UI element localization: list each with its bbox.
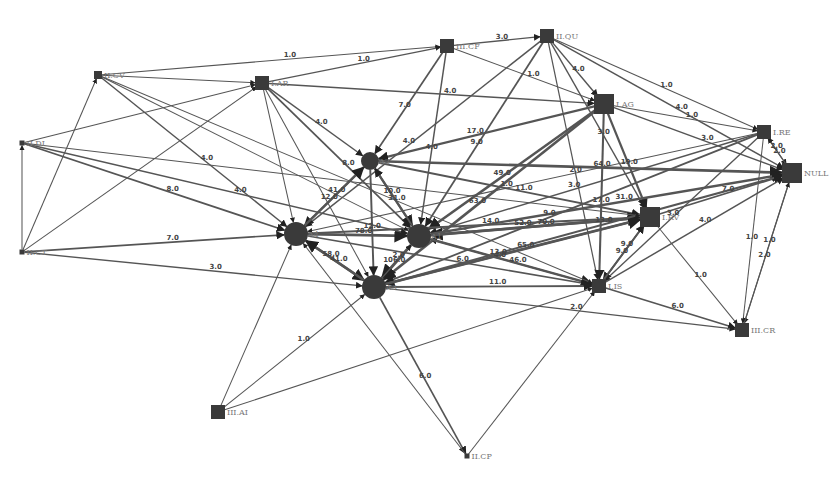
node-i-ag[interactable]: I.AG [594, 94, 634, 114]
edge-II.DI-to-I.AR [24, 85, 255, 143]
edge-weight-label: 3.0 [209, 263, 222, 271]
square-node-shape[interactable] [440, 39, 454, 53]
square-node-shape[interactable] [94, 71, 102, 79]
edge-weight-label: 46.0 [509, 256, 526, 264]
square-node-shape[interactable] [255, 76, 269, 90]
square-node-shape[interactable] [20, 250, 25, 255]
edge-weight-label: 8.0 [342, 159, 355, 167]
edge-weight-label: 9.0 [543, 209, 556, 217]
node-label: NULL [804, 169, 829, 178]
edge-weight-label: 8.0 [166, 185, 179, 193]
edge-weight-label: 52.0 [514, 219, 531, 227]
node-label: II.CT [27, 248, 48, 257]
edge-weight-label: 9.0 [616, 247, 629, 255]
edge-weight-label: 49.0 [494, 169, 511, 177]
edge-weight-label: 17.0 [593, 196, 610, 204]
node-label: II.QU [556, 32, 578, 41]
edge-I.RE-to-A3 [385, 135, 757, 283]
circle-node-shape[interactable] [284, 222, 308, 246]
edge-weight-label: 2.0 [770, 142, 783, 150]
edge-II.CT-to-A3 [24, 252, 362, 286]
node-label: II.CP [472, 452, 493, 461]
node-a4[interactable]: A4 [284, 222, 319, 246]
node-iii-cr[interactable]: III.CR [735, 323, 776, 337]
node-i-re[interactable]: I.RE [757, 125, 791, 139]
node-iii-cf[interactable]: III.CF [440, 39, 480, 53]
node-ii-di[interactable]: II.DI [20, 139, 45, 148]
edge-weight-label: 65.0 [517, 241, 534, 249]
square-node-shape[interactable] [540, 29, 554, 43]
square-node-shape[interactable] [211, 405, 225, 419]
edge-weight-label: 9.0 [621, 240, 634, 248]
edge-weight-label: 4.0 [676, 103, 689, 111]
circle-node-shape[interactable] [361, 152, 379, 170]
edge-weight-label: 31.0 [388, 194, 405, 202]
edge-weight-label: 4.0 [699, 216, 712, 224]
square-node-shape[interactable] [735, 323, 749, 337]
circle-node-shape[interactable] [407, 224, 431, 248]
edge-II.CT-to-I.AR [24, 87, 256, 251]
edge-weight-label: 4.0 [234, 186, 247, 194]
node-label: II.DI [27, 139, 45, 148]
node-label: I.IS [608, 282, 622, 291]
node-i-ar[interactable]: I.AR [255, 76, 289, 90]
edge-weight-label: 58.0 [322, 250, 339, 258]
node-label: II.CV [104, 71, 125, 80]
edge-weight-label: 7.0 [166, 234, 179, 242]
node-a3[interactable]: A3 [362, 275, 397, 299]
edge-weight-label: 4.0 [403, 137, 416, 145]
edge-weight-label: 6.0 [671, 302, 684, 310]
square-node-shape[interactable] [465, 454, 470, 459]
square-node-shape[interactable] [757, 125, 771, 139]
node-null[interactable]: NULL [782, 163, 829, 183]
edge-weight-label: 1.0 [686, 111, 699, 119]
node-ii-qu[interactable]: II.QU [540, 29, 578, 43]
edge-weight-label: 11.0 [489, 278, 506, 286]
edge-II.QU-to-I.RV [550, 42, 645, 208]
edge-weight-label: 1.0 [694, 271, 707, 279]
edge-weight-label: 17.0 [467, 127, 484, 135]
node-label: III.AI [227, 408, 248, 417]
edges-layer [22, 37, 789, 454]
edge-II.DI-to-A1 [24, 144, 407, 234]
edge-weight-label: 1.0 [746, 233, 759, 241]
edge-weight-label: 4.0 [315, 118, 328, 126]
edge-weight-label: 1.0 [358, 55, 371, 63]
edge-weight-label: 7.0 [398, 101, 411, 109]
edge-weight-label: 2.0 [570, 303, 583, 311]
edge-weight-label: 2.0 [758, 251, 771, 259]
edge-weight-label: 11.0 [515, 184, 532, 192]
square-node-shape[interactable] [594, 94, 614, 114]
square-node-shape[interactable] [640, 207, 660, 227]
edge-II.QU-to-A4 [305, 40, 541, 226]
node-label: A2 [378, 157, 390, 166]
circle-node-shape[interactable] [362, 275, 386, 299]
square-node-shape[interactable] [20, 141, 25, 146]
node-label: III.CF [456, 42, 480, 51]
node-iii-ai[interactable]: III.AI [211, 405, 248, 419]
edge-II.CV-to-A1 [102, 77, 409, 231]
node-i-is[interactable]: I.IS [592, 279, 622, 293]
node-label: I.AG [616, 100, 634, 109]
node-label: A3 [385, 283, 397, 292]
edge-weight-label: 31.0 [616, 193, 633, 201]
node-label: I.AR [271, 79, 289, 88]
square-node-shape[interactable] [782, 163, 802, 183]
node-label: A1 [430, 232, 442, 241]
edge-weight-label: 1.0 [298, 335, 311, 343]
edge-weight-label: 3.0 [701, 134, 714, 142]
edge-weight-label: 6.0 [456, 255, 469, 263]
edge-weight-label: 3.0 [597, 128, 610, 136]
edge-weight-label: 3.0 [496, 33, 509, 41]
node-ii-cv[interactable]: II.CV [94, 71, 125, 80]
edge-weight-label: 1.0 [284, 51, 297, 59]
edge-weight-label: 7.0 [722, 185, 735, 193]
node-label: III.CR [751, 326, 776, 335]
square-node-shape[interactable] [592, 279, 606, 293]
node-a2[interactable]: A2 [361, 152, 390, 170]
edge-weight-label: 63.0 [469, 197, 486, 205]
edge-weight-label: 10.0 [383, 187, 400, 195]
edge-weight-label: 2.0 [393, 251, 406, 259]
edge-II.CT-to-A4 [24, 235, 284, 252]
edge-weight-label: 4.0 [201, 154, 214, 162]
